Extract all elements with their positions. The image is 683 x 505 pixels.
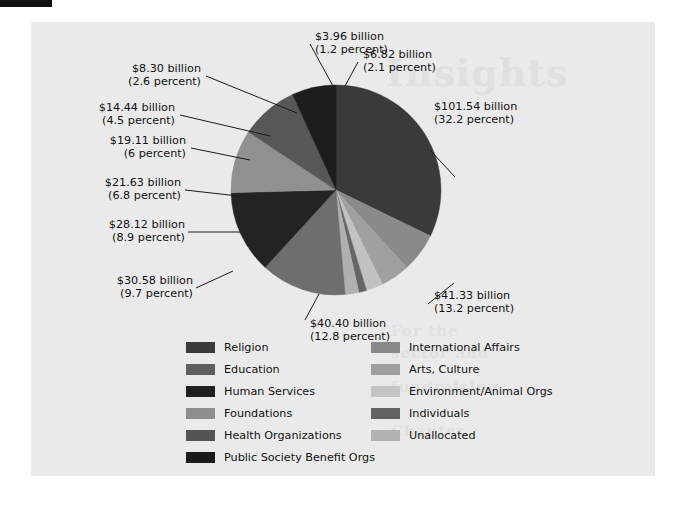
callout-international-percent: (6 percent) <box>53 147 186 160</box>
callout-international: $19.11 billion (6 percent) <box>53 134 186 161</box>
legend-item-label: Arts, Culture <box>409 363 479 376</box>
pie-slice-group <box>231 85 441 295</box>
callout-unallocated-percent: (2.1 percent) <box>363 61 436 74</box>
legend-item[interactable]: Environment/Animal Orgs <box>371 380 553 402</box>
callout-religion-percent: (32.2 percent) <box>434 113 517 126</box>
legend-item[interactable]: Religion <box>186 336 375 358</box>
legend-swatch-icon <box>371 386 400 397</box>
legend-item[interactable]: Health Organizations <box>186 424 375 446</box>
legend-swatch-icon <box>186 342 215 353</box>
legend-item-label: Health Organizations <box>224 429 342 442</box>
legend-swatch-icon <box>186 364 215 375</box>
callout-unallocated-value: $6.82 billion <box>363 48 436 61</box>
legend-item-label: Environment/Animal Orgs <box>409 385 553 398</box>
legend-column-right: International AffairsArts, CultureEnviro… <box>371 336 553 446</box>
leader-line-foundations <box>196 271 233 288</box>
legend-swatch-icon <box>371 430 400 441</box>
legend-item-label: Human Services <box>224 385 315 398</box>
legend-item[interactable]: Unallocated <box>371 424 553 446</box>
legend-item[interactable]: Arts, Culture <box>371 358 553 380</box>
legend-swatch-icon <box>371 364 400 375</box>
callout-unallocated: $6.82 billion (2.1 percent) <box>363 48 436 75</box>
legend-item-label: Religion <box>224 341 269 354</box>
legend-swatch-icon <box>186 408 215 419</box>
callout-health: $28.12 billion (8.9 percent) <box>52 218 185 245</box>
callout-health-percent: (8.9 percent) <box>52 231 185 244</box>
callout-religion: $101.54 billion (32.2 percent) <box>434 100 517 127</box>
callout-foundations-percent: (9.7 percent) <box>60 287 193 300</box>
callout-foundations-value: $30.58 billion <box>60 274 193 287</box>
legend-item[interactable]: International Affairs <box>371 336 553 358</box>
legend-swatch-icon <box>186 452 215 463</box>
leader-line-environment <box>206 76 297 113</box>
callout-arts-value: $14.44 billion <box>42 101 175 114</box>
legend-item[interactable]: Individuals <box>371 402 553 424</box>
legend-column-left: ReligionEducationHuman ServicesFoundatio… <box>186 336 375 468</box>
leader-line-unallocated <box>345 62 358 86</box>
legend-item-label: International Affairs <box>409 341 520 354</box>
callout-education-value: $41.33 billion <box>434 289 514 302</box>
legend-item[interactable]: Foundations <box>186 402 375 424</box>
callout-public-society-value: $21.63 billion <box>48 176 181 189</box>
callout-international-value: $19.11 billion <box>53 134 186 147</box>
legend-swatch-icon <box>371 408 400 419</box>
callout-individuals-value: $3.96 billion <box>315 30 388 43</box>
callout-environment: $8.30 billion (2.6 percent) <box>68 62 201 89</box>
callout-public-society: $21.63 billion (6.8 percent) <box>48 176 181 203</box>
legend-item-label: Education <box>224 363 280 376</box>
callout-arts-percent: (4.5 percent) <box>42 114 175 127</box>
legend-item-label: Unallocated <box>409 429 476 442</box>
legend-item-label: Public Society Benefit Orgs <box>224 451 375 464</box>
pie-chart: $101.54 billion (32.2 percent) $41.33 bi… <box>0 0 683 505</box>
legend-item-label: Individuals <box>409 407 469 420</box>
legend-swatch-icon <box>371 342 400 353</box>
legend-item[interactable]: Education <box>186 358 375 380</box>
callout-public-society-percent: (6.8 percent) <box>48 189 181 202</box>
legend-item[interactable]: Human Services <box>186 380 375 402</box>
legend-swatch-icon <box>186 386 215 397</box>
callout-foundations: $30.58 billion (9.7 percent) <box>60 274 193 301</box>
legend-swatch-icon <box>186 430 215 441</box>
callout-religion-value: $101.54 billion <box>434 100 517 113</box>
legend-item[interactable]: Public Society Benefit Orgs <box>186 446 375 468</box>
callout-human-services-value: $40.40 billion <box>310 317 390 330</box>
callout-education-percent: (13.2 percent) <box>434 302 514 315</box>
chart-legend: ReligionEducationHuman ServicesFoundatio… <box>186 336 566 466</box>
callout-health-value: $28.12 billion <box>52 218 185 231</box>
callout-education: $41.33 billion (13.2 percent) <box>434 289 514 316</box>
legend-item-label: Foundations <box>224 407 292 420</box>
callout-environment-value: $8.30 billion <box>68 62 201 75</box>
callout-arts: $14.44 billion (4.5 percent) <box>42 101 175 128</box>
callout-environment-percent: (2.6 percent) <box>68 75 201 88</box>
